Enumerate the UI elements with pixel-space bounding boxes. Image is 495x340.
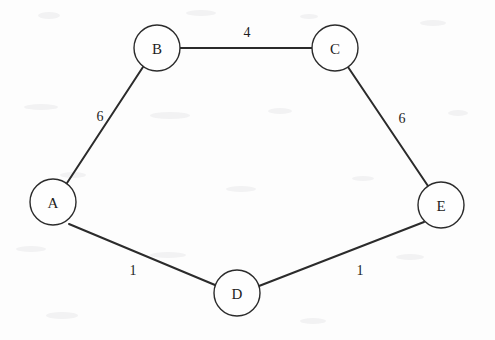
node-b-label: B [152, 41, 162, 57]
node-a-label: A [48, 195, 59, 211]
edge-d-e[interactable] [259, 222, 424, 286]
node-e[interactable]: E [418, 182, 464, 228]
edges-group [67, 48, 428, 286]
graph-canvas: A B C D E 4 6 6 1 1 [0, 0, 495, 340]
node-c[interactable]: C [312, 25, 358, 71]
node-c-label: C [330, 41, 340, 57]
nodes-group: A B C D E [30, 25, 464, 316]
edge-weight-a-d: 1 [130, 263, 137, 278]
edge-weight-b-c: 4 [244, 25, 251, 40]
edge-weight-a-b: 6 [97, 109, 104, 124]
node-b[interactable]: B [134, 25, 180, 71]
node-d-label: D [232, 286, 243, 302]
edge-c-e[interactable] [348, 67, 428, 186]
edge-a-b[interactable] [67, 67, 143, 183]
graph-svg: A B C D E 4 6 6 1 1 [0, 0, 495, 340]
edge-a-d[interactable] [69, 224, 215, 285]
node-e-label: E [436, 198, 445, 214]
node-a[interactable]: A [30, 179, 76, 225]
node-d[interactable]: D [214, 270, 260, 316]
edge-weight-d-e: 1 [357, 263, 364, 278]
edge-weight-c-e: 6 [399, 111, 406, 126]
